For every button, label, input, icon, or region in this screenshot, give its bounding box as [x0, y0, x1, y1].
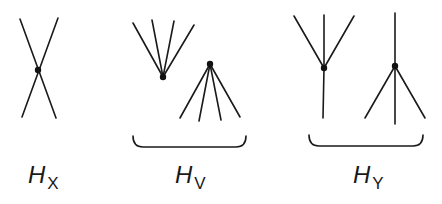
label-hx-subscript: X [47, 174, 58, 193]
label-hv-subscript: V [194, 174, 205, 193]
label-hy: HY [353, 163, 384, 187]
label-hx: HX [28, 163, 59, 187]
label-hy-subscript: Y [372, 174, 383, 193]
label-hv: HV [175, 163, 206, 187]
label-hy-main: H [353, 161, 370, 188]
v-fan-up-glyph [133, 20, 194, 80]
crossing-x-glyph [20, 18, 58, 118]
label-hv-main: H [175, 161, 192, 188]
v-fan-down-glyph [180, 61, 240, 121]
label-hx-main: H [28, 161, 45, 188]
y-bracket [309, 135, 423, 146]
y-down-glyph [365, 13, 425, 124]
v-bracket [133, 136, 246, 147]
y-up-glyph [294, 15, 354, 118]
